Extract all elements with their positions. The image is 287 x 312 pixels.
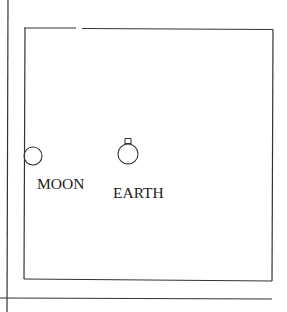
frame-right-edge [272,30,273,282]
moon-earth-diagram: MOON EARTH [0,0,287,312]
vertical-axis-line [7,0,8,312]
moon-icon [24,147,42,165]
earth-icon [118,139,138,165]
earth-label: EARTH [113,184,164,201]
earth-marker-icon [125,139,131,144]
frame-box [24,28,273,281]
moon-label: MOON [37,175,84,192]
frame-bottom-edge [24,279,272,281]
frame-top-right-segment [82,29,273,30]
horizontal-axis-line [0,298,272,299]
